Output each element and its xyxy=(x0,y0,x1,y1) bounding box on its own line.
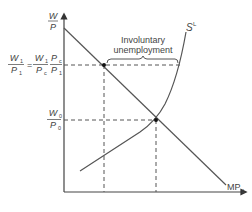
svg-text:c: c xyxy=(44,70,47,76)
svg-text:1: 1 xyxy=(19,70,22,76)
svg-text:c: c xyxy=(59,58,62,64)
supply-label: S xyxy=(186,22,193,33)
svg-text:W: W xyxy=(49,108,59,118)
demand-label-sub: L xyxy=(242,188,245,194)
svg-text:0: 0 xyxy=(59,113,62,119)
annotation-line-1: Involuntary xyxy=(121,35,166,45)
svg-text:P: P xyxy=(36,65,42,75)
svg-text:1: 1 xyxy=(45,58,48,64)
svg-text:P: P xyxy=(51,53,57,63)
svg-text:1: 1 xyxy=(20,58,23,64)
svg-text:=: = xyxy=(27,60,32,70)
lower-level-label: W 0 P 0 xyxy=(47,108,62,131)
demand-label: MP xyxy=(227,182,241,192)
supply-curve-label: S L xyxy=(186,21,197,33)
y-label-numerator: W xyxy=(49,11,59,21)
svg-text:0: 0 xyxy=(58,125,61,131)
y-axis-label: W P xyxy=(48,11,59,32)
svg-text:P: P xyxy=(11,65,17,75)
svg-text:P: P xyxy=(50,120,56,130)
supply-label-sup: L xyxy=(193,21,197,27)
y-label-denominator: P xyxy=(50,22,56,32)
svg-text:W: W xyxy=(10,53,20,63)
svg-text:P: P xyxy=(51,65,57,75)
unemployment-bracket xyxy=(107,56,178,63)
annotation-line-2: unemployment xyxy=(113,45,173,55)
labour-market-diagram: W P Involuntary unemployment S L MP L W … xyxy=(0,0,252,212)
upper-intersection-point xyxy=(102,63,106,67)
upper-level-label: W 1 P 1 = W 1 P c P c P 1 xyxy=(8,53,62,76)
svg-text:W: W xyxy=(35,53,45,63)
svg-text:1: 1 xyxy=(59,70,62,76)
equilibrium-point xyxy=(154,118,158,122)
